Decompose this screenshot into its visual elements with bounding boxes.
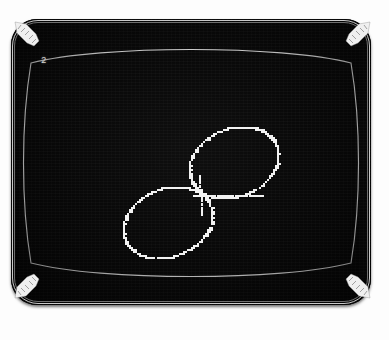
photograph-canvas: 2 xyxy=(0,0,389,340)
screen-raster-noise xyxy=(11,19,371,305)
status-character: 2 xyxy=(41,57,46,66)
crt-screen xyxy=(11,19,371,305)
